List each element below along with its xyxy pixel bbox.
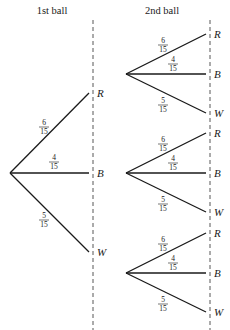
node-1-W: W	[97, 246, 107, 258]
svg-text:6: 6	[42, 118, 46, 127]
prob-1-R: 6 15	[39, 118, 49, 136]
node-2-R: R	[213, 28, 221, 40]
svg-text:6: 6	[161, 135, 165, 144]
stage2-subtree-after-R: R B W 6 15 4 15 5 15	[126, 28, 224, 119]
prob-2-R: 6 15	[158, 135, 168, 153]
svg-text:5: 5	[161, 195, 165, 204]
prob-1-W: 5 15	[39, 211, 49, 229]
svg-text:4: 4	[171, 55, 175, 64]
svg-text:15: 15	[50, 162, 58, 171]
branch-1-R	[10, 93, 89, 173]
svg-text:4: 4	[171, 154, 175, 163]
node-2-B: B	[214, 68, 221, 80]
branch-1-W	[10, 173, 89, 252]
svg-text:4: 4	[52, 153, 56, 162]
svg-text:15: 15	[159, 244, 167, 253]
prob-2-W: 5 15	[158, 295, 168, 313]
svg-text:5: 5	[161, 96, 165, 105]
node-2-W: W	[214, 306, 224, 318]
svg-text:15: 15	[159, 45, 167, 54]
svg-text:6: 6	[161, 235, 165, 244]
svg-text:15: 15	[169, 263, 177, 272]
prob-2-R: 6 15	[158, 235, 168, 253]
prob-2-W: 5 15	[158, 195, 168, 213]
svg-text:6: 6	[161, 36, 165, 45]
svg-text:15: 15	[159, 204, 167, 213]
stage2-header: 2nd ball	[145, 5, 179, 16]
prob-2-B: 4 15	[168, 55, 178, 73]
svg-text:15: 15	[159, 304, 167, 313]
node-2-B: B	[214, 267, 221, 279]
stage1-tree: R B W 6 15 4 15 5 15	[10, 87, 107, 258]
node-2-W: W	[214, 206, 224, 218]
prob-1-B: 4 15	[49, 153, 59, 171]
node-1-B: B	[97, 167, 104, 179]
svg-text:15: 15	[40, 220, 48, 229]
svg-text:15: 15	[169, 163, 177, 172]
svg-text:4: 4	[171, 254, 175, 263]
svg-text:15: 15	[159, 144, 167, 153]
node-1-R: R	[96, 87, 104, 99]
stage2-subtree-after-B: R B W 6 15 4 15 5 15	[126, 127, 224, 218]
prob-2-B: 4 15	[168, 154, 178, 172]
node-2-R: R	[213, 127, 221, 139]
stage2-subtree-after-W: R B W 6 15 4 15 5 15	[126, 227, 224, 318]
prob-2-B: 4 15	[168, 254, 178, 272]
svg-text:15: 15	[169, 64, 177, 73]
node-2-W: W	[214, 107, 224, 119]
node-2-B: B	[214, 167, 221, 179]
stage1-header: 1st ball	[37, 5, 68, 16]
prob-2-R: 6 15	[158, 36, 168, 54]
svg-text:15: 15	[159, 105, 167, 114]
svg-text:5: 5	[42, 211, 46, 220]
probability-tree-diagram: 1st ball 2nd ball R B W 6 15 4 15 5 15	[0, 0, 230, 330]
prob-2-W: 5 15	[158, 96, 168, 114]
node-2-R: R	[213, 227, 221, 239]
svg-text:15: 15	[40, 127, 48, 136]
svg-text:5: 5	[161, 295, 165, 304]
